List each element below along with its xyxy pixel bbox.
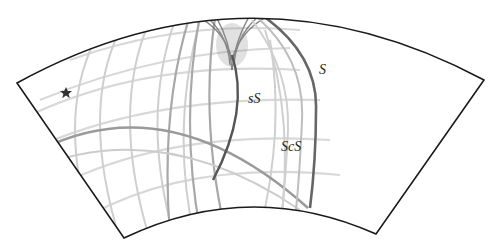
ss-wavefront [213,55,238,180]
wavefronts [20,15,340,240]
scs-phase-label: ScS [281,140,301,154]
s-phase-label: S [319,63,326,77]
ss-phase-label: sS [248,92,260,106]
wavefield-svg [0,0,500,252]
wavefield-figure: S sS ScS [0,0,500,252]
